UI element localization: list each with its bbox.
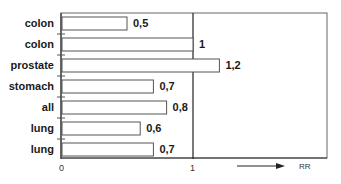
- value-label: 0,5: [133, 17, 148, 30]
- category-label: all: [42, 101, 54, 114]
- bar-prostate: [62, 59, 219, 72]
- value-label: 0,7: [159, 143, 174, 156]
- bar-colon: [62, 38, 193, 51]
- bar-lung: [62, 143, 153, 156]
- bar-all: [62, 101, 167, 114]
- rr-bar-chart: colon0,5colon1prostate1,2stomach0,7all0,…: [0, 0, 341, 184]
- bar-lung: [62, 122, 140, 135]
- category-label: lung: [31, 122, 54, 135]
- bar-colon: [62, 17, 127, 30]
- value-label: 0,7: [159, 80, 174, 93]
- category-label: stomach: [9, 80, 54, 93]
- value-label: 0,6: [146, 122, 161, 135]
- x-tick-label-1: 1: [190, 163, 195, 174]
- x-tick-label-0: 0: [59, 163, 64, 174]
- category-label: lung: [31, 143, 54, 156]
- x-axis-label: RR: [299, 161, 311, 172]
- category-label: colon: [25, 38, 54, 51]
- bars-group: [62, 17, 219, 156]
- rr-arrow-icon: [237, 163, 285, 169]
- category-label: prostate: [11, 59, 54, 72]
- bar-stomach: [62, 80, 153, 93]
- category-label: colon: [25, 17, 54, 30]
- value-label: 1: [199, 38, 205, 51]
- value-label: 1,2: [225, 59, 240, 72]
- value-label: 0,8: [173, 101, 188, 114]
